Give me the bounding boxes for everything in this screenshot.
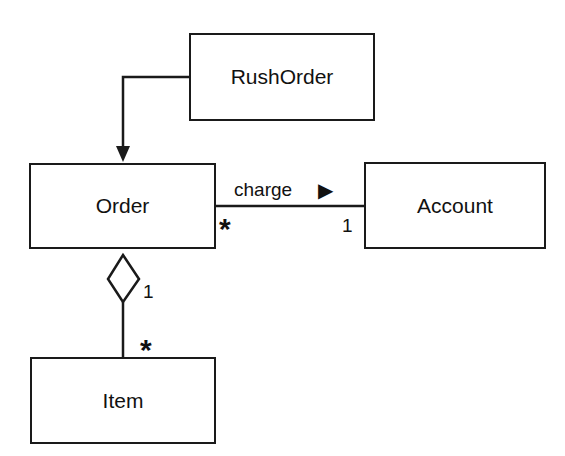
- generalization-line: [123, 77, 189, 150]
- class-name: RushOrder: [231, 65, 334, 89]
- multiplicity-many: *: [219, 214, 231, 244]
- arrowhead-icon: [116, 146, 130, 162]
- class-rushorder: RushOrder: [189, 33, 375, 121]
- class-order: Order: [29, 163, 216, 249]
- class-name: Order: [96, 194, 150, 218]
- class-name: Account: [417, 194, 493, 218]
- class-item: Item: [30, 357, 216, 444]
- association-label: charge: [234, 180, 292, 199]
- class-name: Item: [103, 389, 144, 413]
- direction-arrow-icon: ▶: [318, 180, 333, 200]
- class-account: Account: [364, 162, 546, 249]
- multiplicity-one: 1: [342, 216, 353, 235]
- multiplicity-one: 1: [143, 282, 154, 301]
- multiplicity-many: *: [140, 335, 152, 365]
- aggregation-diamond-icon: [108, 255, 139, 302]
